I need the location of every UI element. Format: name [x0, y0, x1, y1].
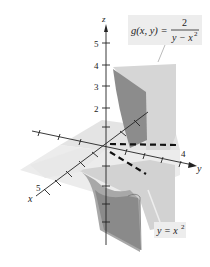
z-axis-arrow-icon	[104, 24, 108, 32]
function-lhs: g(x, y) =	[131, 25, 168, 37]
function-denominator: y − x	[171, 32, 193, 43]
x-axis-label: x	[27, 193, 33, 204]
y-axis-arrow-icon	[188, 162, 197, 168]
z-axis-label: z	[101, 14, 106, 24]
z-tick-4: 4	[94, 61, 99, 71]
lower-surface-dark	[95, 190, 141, 250]
x-tick-5: 5	[36, 183, 41, 193]
curve-label-exp: 2	[181, 223, 185, 231]
z-tick-5: 5	[94, 39, 99, 49]
z-tick-3: 3	[94, 82, 99, 92]
function-label-leader	[158, 45, 165, 62]
function-numerator: 2	[182, 17, 187, 28]
surface-plot: z 5 4 3 2 4 y 5 x g(x, y) = 2 y − x 2 y …	[0, 0, 210, 267]
curve-label: y = x	[156, 225, 178, 236]
z-tick-2: 2	[94, 104, 99, 114]
y-axis-label: y	[196, 163, 202, 174]
y-tick-4: 4	[181, 149, 186, 159]
function-denominator-exp: 2	[194, 30, 198, 38]
